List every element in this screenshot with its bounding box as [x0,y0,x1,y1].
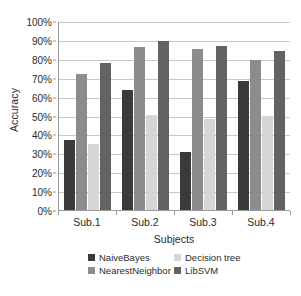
y-axis-tick-label: 50% [32,111,52,122]
legend-item: NaiveBayes [88,252,174,263]
bar [122,90,133,210]
y-axis-tick-label: 20% [32,168,52,179]
y-axis-tick-label: 100% [26,17,52,28]
x-axis-category-labels: Sub.1Sub.2Sub.3Sub.4 [58,216,290,228]
y-axis-tick-label: 90% [32,35,52,46]
legend-swatch-icon [88,267,95,274]
x-axis-category-label: Sub.4 [232,216,290,228]
bar [158,41,169,210]
y-axis-tick-mark [53,78,56,79]
y-axis-tick-mark [53,59,56,60]
bar [134,47,145,210]
bar-group [59,22,117,210]
x-axis-category-label: Sub.1 [58,216,116,228]
x-axis-category-label: Sub.2 [116,216,174,228]
x-axis-tick-mark [290,211,291,215]
legend-swatch-icon [174,254,181,261]
bar [180,152,191,210]
x-axis-tick-mark [174,211,175,215]
bar-group [117,22,175,210]
bar [262,116,273,210]
x-axis-tick-mark [232,211,233,215]
y-axis-tick-mark [53,192,56,193]
legend-label: Decision tree [185,252,240,263]
x-axis-tick-mark [116,211,117,215]
x-axis-category-label: Sub.3 [174,216,232,228]
y-axis-tick-mark [53,211,56,212]
bar-groups [59,22,290,210]
y-axis-tick-label: 30% [32,149,52,160]
y-axis-tick-label: 10% [32,187,52,198]
bar [216,46,227,210]
y-axis-tick-label: 60% [32,92,52,103]
bar-group [232,22,290,210]
legend-label: NearestNeighbor [99,265,171,276]
legend-item: NearestNeighbor [88,265,174,276]
legend-swatch-icon [174,267,181,274]
y-axis-tick-mark [53,116,56,117]
legend-swatch-icon [88,254,95,261]
y-axis-tick-label: 70% [32,73,52,84]
x-axis-title: Subjects [58,233,290,245]
bar [238,81,249,210]
bar [64,140,75,210]
y-axis-tick-mark [53,22,56,23]
plot-frame [58,22,290,211]
legend-label: NaiveBayes [99,252,150,263]
bar [76,74,87,210]
bar [274,51,285,210]
y-axis-tick-mark [53,97,56,98]
y-axis-tick-label: 40% [32,130,52,141]
bar [100,63,111,210]
y-axis-tick-label: 0% [38,206,52,217]
y-axis-tick-mark [53,135,56,136]
chart-legend: NaiveBayesDecision treeNearestNeighborLi… [88,251,278,277]
bar-chart: Accuracy 0%10%20%30%40%50%60%70%80%90%10… [0,0,301,296]
bar [204,119,215,210]
x-axis-ticks [58,211,290,215]
y-axis-tick-label: 80% [32,54,52,65]
bar [250,60,261,210]
bar [88,144,99,210]
legend-label: LibSVM [185,265,218,276]
bar-group [175,22,233,210]
y-axis-tick-mark [53,173,56,174]
bar [146,115,157,210]
y-axis-tick-mark [53,154,56,155]
legend-item: Decision tree [174,252,278,263]
y-axis-tick-mark [53,40,56,41]
legend-item: LibSVM [174,265,278,276]
bar [192,49,203,210]
y-axis-tick-labels: 0%10%20%30%40%50%60%70%80%90%100% [14,22,56,211]
plot-area [58,22,290,211]
x-axis-tick-mark [58,211,59,215]
